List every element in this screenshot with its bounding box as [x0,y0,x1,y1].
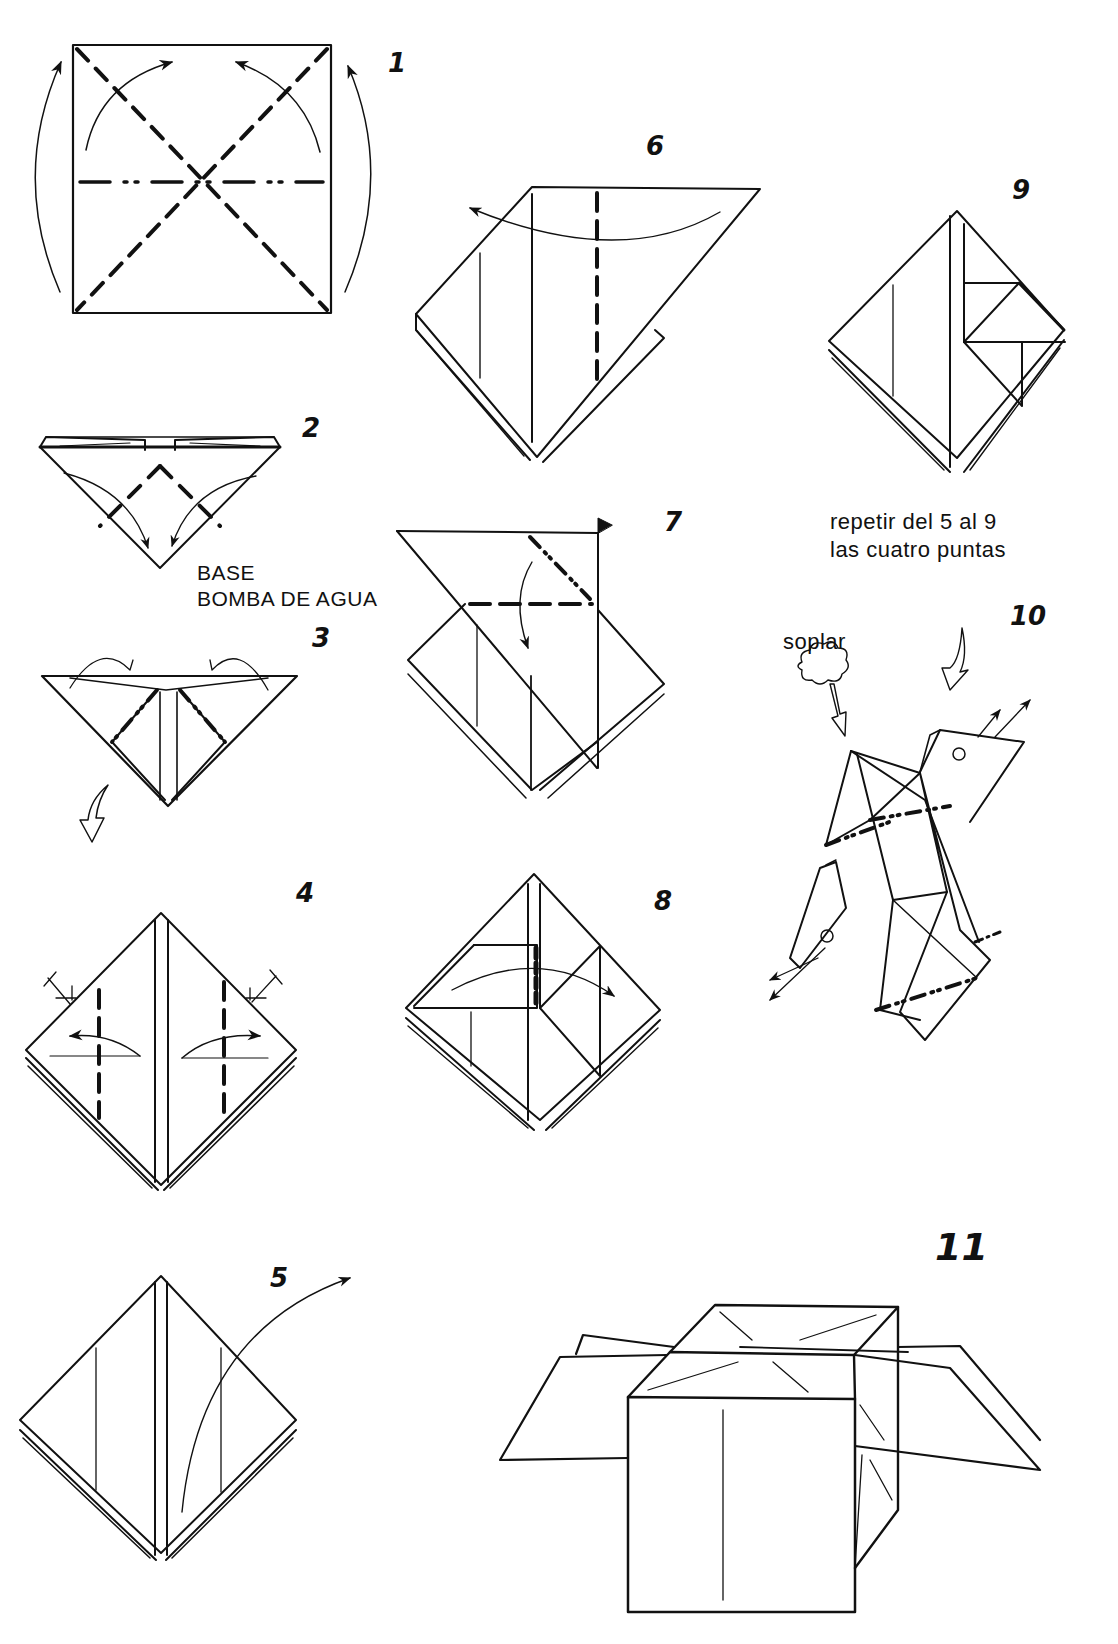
step-11-diagram [500,1305,1040,1612]
fold-arrow [35,62,61,292]
step-4-diagram [26,913,296,1190]
fold-arrow [236,62,320,152]
step-number-9: 9 [1012,177,1030,203]
hollow-arrow [830,684,846,736]
step-2-diagram [40,437,280,568]
step-number-4: 4 [296,880,314,906]
base-caption-line1: BASE [197,560,377,586]
step-number-11: 11 [935,1228,988,1266]
step-5-diagram [20,1276,350,1560]
step-number-2: 2 [302,415,320,441]
step-number-7: 7 [664,509,682,535]
base-caption-line2: BOMBA DE AGUA [197,586,377,612]
step-3-diagram [42,658,297,806]
step-7-diagram [397,518,664,798]
fold-arrow [345,66,371,292]
repeat-note: repetir del 5 al 9 las cuatro puntas [830,508,1006,563]
blow-label: soplar [783,628,846,656]
fold-arrow [182,1278,350,1512]
hollow-arrow [942,628,968,690]
step-number-5: 5 [270,1265,288,1291]
step-number-1: 1 [388,50,406,76]
fold-arrow [182,1035,260,1058]
step-6-diagram [416,187,760,462]
fold-arrow [172,476,256,546]
diagram-canvas [0,0,1118,1644]
repeat-note-line2: las cuatro puntas [830,536,1006,564]
step-1-diagram [35,45,371,313]
step-8-diagram [406,874,660,1130]
base-caption: BASE BOMBA DE AGUA [197,560,377,613]
step-number-10: 10 [1010,603,1046,629]
repeat-note-line1: repetir del 5 al 9 [830,508,1006,536]
step-number-6: 6 [646,133,664,159]
step-number-8: 8 [654,888,672,914]
fold-arrow [452,968,614,996]
turn-over-arrow [80,785,108,842]
step-10-diagram [770,700,1030,1040]
step-number-3: 3 [312,625,330,651]
fold-arrow [70,1035,140,1056]
step-9-diagram [829,211,1065,472]
